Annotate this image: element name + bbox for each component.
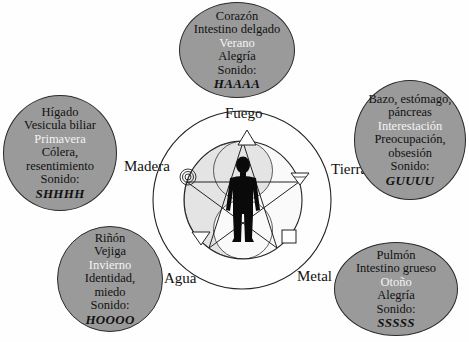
sound-label: Sonido:: [377, 303, 416, 317]
emotion-line: Cólera,: [42, 146, 78, 160]
five-elements-diagram: Fuego Tierra Metal Agua Madera Corazón I…: [0, 0, 469, 342]
organ-line: Vesicula biliar: [24, 119, 96, 133]
organ-line: páncreas: [388, 106, 432, 120]
season-label: Otoño: [380, 276, 411, 290]
oval-fuego: Corazón Intestino delgado Verano Alegría…: [179, 2, 295, 98]
oval-tierra: Bazo, estómago, páncreas Interestación P…: [354, 80, 466, 200]
organ-line: Corazón: [216, 10, 258, 24]
oval-agua: Riñón Vejiga Invierno Identidad, miedo S…: [57, 226, 163, 332]
sound-label: Sonido:: [41, 173, 80, 187]
season-label: Interestación: [378, 120, 443, 134]
emotion-line: resentimiento: [26, 160, 94, 174]
organ-line: Intestino grueso: [356, 262, 436, 276]
season-label: Verano: [219, 37, 254, 51]
fire-triangle-icon: [238, 130, 256, 145]
oval-metal: Pulmón Intestino grueso Otoño Alegría So…: [334, 242, 458, 336]
sound-label: Sonido:: [391, 160, 430, 174]
organ-line: Intestino delgado: [194, 23, 280, 37]
season-label: Primavera: [34, 133, 85, 147]
element-label-metal: Metal: [297, 268, 332, 285]
sound-value: HOOOO: [85, 313, 134, 327]
emotion-line: obsesión: [388, 147, 432, 161]
element-label-agua: Agua: [164, 270, 197, 287]
organ-line: Pulmón: [377, 249, 416, 263]
organ-line: Riñón: [95, 232, 126, 246]
sound-value: HAAAA: [214, 77, 260, 91]
sound-value: GUUUU: [386, 174, 434, 188]
metal-square-icon: [282, 230, 296, 243]
element-label-fuego: Fuego: [225, 105, 263, 122]
season-label: Invierno: [89, 259, 131, 273]
sound-label: Sonido:: [218, 64, 257, 78]
emotion-line: Alegría: [377, 289, 414, 303]
organ-line: Vejiga: [94, 245, 126, 259]
emotion-line: miedo: [94, 286, 125, 300]
oval-madera: Hígado Vesicula biliar Primavera Cólera,…: [3, 95, 117, 211]
emotion-line: Identidad,: [85, 272, 135, 286]
emotion-line: Preocupación,: [374, 133, 445, 147]
emotion-line: Alegría: [218, 50, 255, 64]
sound-label: Sonido:: [91, 299, 130, 313]
organ-line: Bazo, estómago,: [369, 93, 452, 107]
wood-circles-icon: [180, 169, 196, 185]
sound-value: SHHHH: [35, 187, 84, 201]
sound-value: SSSSS: [377, 316, 415, 330]
organ-line: Hígado: [42, 106, 79, 120]
element-label-madera: Madera: [124, 158, 170, 175]
